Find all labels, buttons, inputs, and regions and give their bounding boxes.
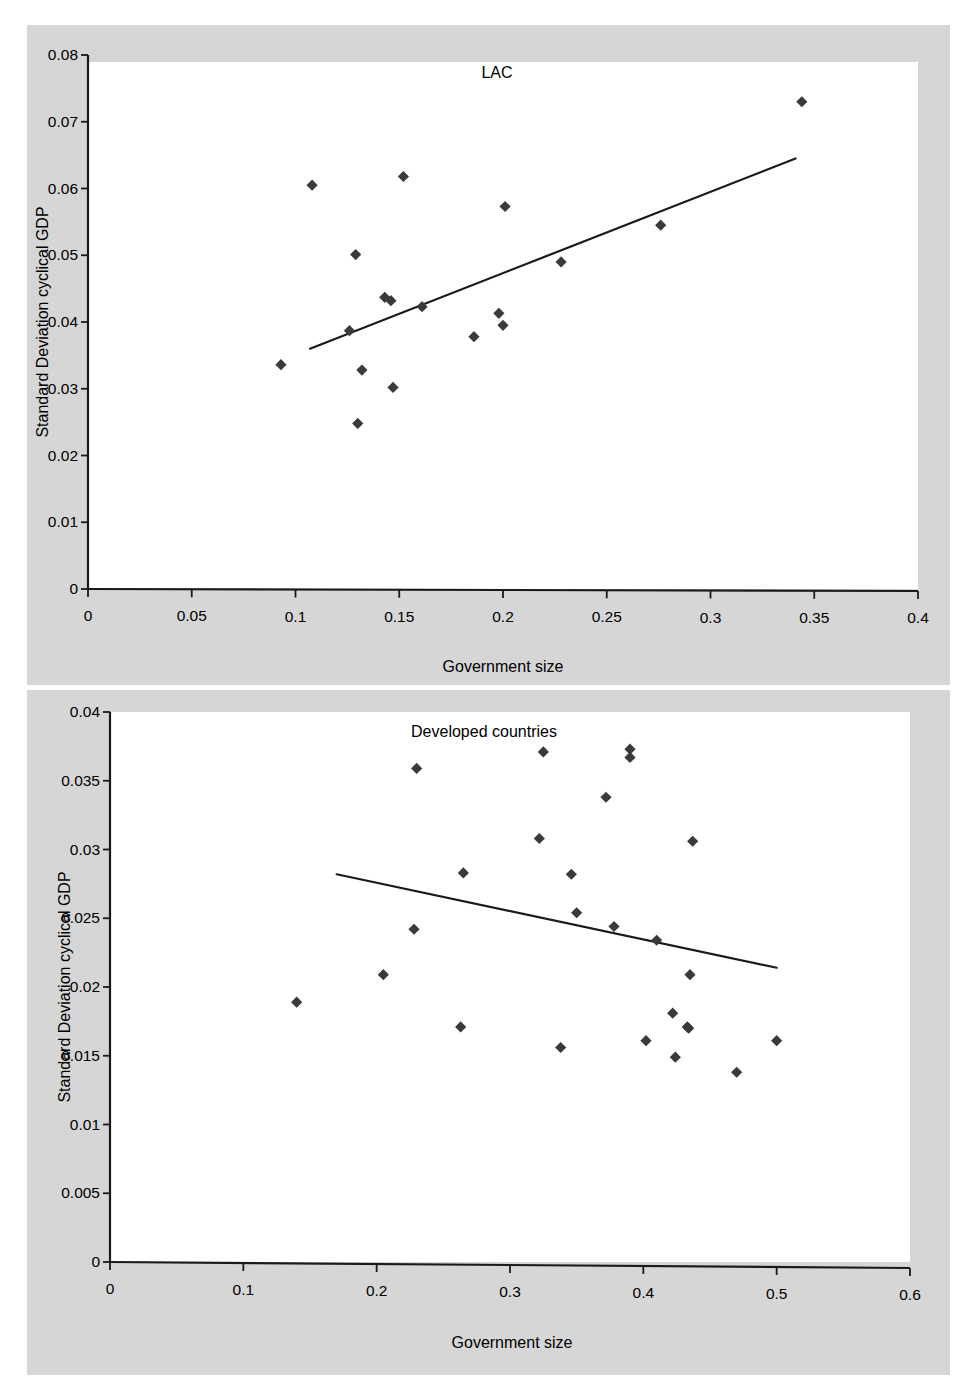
y-tick-label: 0.05 — [48, 246, 78, 263]
data-point-marker — [356, 364, 367, 375]
x-axis-title: Government size — [443, 658, 564, 675]
x-tick-label: 0 — [106, 1280, 115, 1297]
y-axis-title: Standard Deviation cyclical GDP — [34, 206, 51, 437]
y-tick-label: 0.07 — [48, 113, 78, 130]
y-tick-label: 0.01 — [70, 1116, 100, 1133]
x-tick-label: 0.1 — [233, 1281, 255, 1298]
x-tick-label: 0.6 — [899, 1286, 921, 1303]
data-point-marker — [640, 1035, 651, 1046]
y-tick-label: 0.04 — [70, 703, 101, 720]
chart-title: Developed countries — [411, 723, 557, 740]
y-tick-label: 0.03 — [48, 380, 78, 397]
data-point-marker — [468, 331, 479, 342]
chart-lac: 00.010.020.030.040.050.060.070.0800.050.… — [34, 46, 929, 675]
data-point-marker — [497, 320, 508, 331]
data-point-marker — [687, 836, 698, 847]
data-point-marker — [378, 969, 389, 980]
y-tick-label: 0 — [69, 580, 78, 597]
data-point-marker — [350, 249, 361, 260]
data-point-marker — [556, 256, 567, 267]
x-axis-title: Government size — [452, 1334, 573, 1351]
x-tick-label: 0.3 — [700, 609, 722, 626]
data-point-marker — [534, 833, 545, 844]
data-point-marker — [455, 1021, 466, 1032]
data-point-marker — [398, 171, 409, 182]
data-point-marker — [555, 1042, 566, 1053]
y-axis-title: Standard Deviation cyclical GDP — [56, 871, 73, 1102]
chart-developed-countries: 00.0050.010.0150.020.0250.030.0350.0400.… — [56, 703, 921, 1351]
data-point-marker — [411, 763, 422, 774]
y-tick-label: 0.06 — [48, 180, 78, 197]
x-tick-label: 0.4 — [907, 609, 929, 626]
x-tick-label: 0.3 — [499, 1283, 521, 1300]
y-tick-label: 0.005 — [61, 1184, 100, 1201]
data-point-marker — [571, 907, 582, 918]
data-point-marker — [307, 180, 318, 191]
y-tick-label: 0.04 — [48, 313, 79, 330]
x-tick-label: 0 — [84, 607, 93, 624]
charts-svg: 00.010.020.030.040.050.060.070.0800.050.… — [0, 0, 977, 1396]
data-point-marker — [538, 746, 549, 757]
data-point-marker — [493, 308, 504, 319]
data-point-marker — [771, 1035, 782, 1046]
data-point-marker — [670, 1052, 681, 1063]
y-tick-label: 0.01 — [48, 513, 78, 530]
data-point-marker — [352, 418, 363, 429]
figure-container: 00.010.020.030.040.050.060.070.0800.050.… — [0, 0, 977, 1396]
data-point-marker — [566, 869, 577, 880]
data-point-marker — [291, 997, 302, 1008]
x-tick-label: 0.5 — [766, 1285, 788, 1302]
trendline — [337, 874, 777, 968]
x-tick-label: 0.35 — [799, 609, 829, 626]
data-point-marker — [408, 924, 419, 935]
y-tick-label: 0.03 — [70, 841, 100, 858]
data-point-marker — [275, 359, 286, 370]
chart-title: LAC — [481, 64, 512, 81]
x-tick-label: 0.2 — [366, 1282, 388, 1299]
data-point-marker — [387, 382, 398, 393]
data-point-marker — [684, 969, 695, 980]
x-tick-label: 0.2 — [492, 608, 514, 625]
y-tick-label: 0 — [91, 1253, 100, 1270]
y-tick-label: 0.08 — [48, 46, 78, 63]
x-tick-label: 0.25 — [592, 608, 622, 625]
y-tick-label: 0.02 — [48, 447, 78, 464]
y-tick-label: 0.02 — [70, 978, 100, 995]
data-point-marker — [600, 792, 611, 803]
x-tick-label: 0.4 — [633, 1284, 655, 1301]
data-point-marker — [624, 752, 635, 763]
data-point-marker — [667, 1008, 678, 1019]
y-tick-label: 0.035 — [61, 772, 100, 789]
x-tick-label: 0.05 — [177, 607, 207, 624]
data-point-marker — [796, 96, 807, 107]
data-point-marker — [499, 201, 510, 212]
trendline — [310, 158, 796, 348]
x-tick-label: 0.1 — [285, 608, 307, 625]
x-tick-label: 0.15 — [384, 608, 414, 625]
data-point-marker — [608, 921, 619, 932]
data-point-marker — [458, 867, 469, 878]
data-point-marker — [731, 1067, 742, 1078]
data-point-marker — [655, 220, 666, 231]
